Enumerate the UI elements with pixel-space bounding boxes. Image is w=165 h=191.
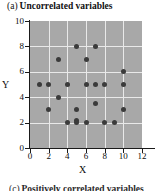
- y-tick-label: 4: [2, 93, 24, 102]
- y-axis-line: [29, 20, 30, 149]
- next-panel-letter: (c): [9, 184, 20, 191]
- data-point: [84, 82, 89, 87]
- y-tick-label: 2: [2, 118, 24, 127]
- x-axis-line: [29, 148, 155, 149]
- y-tick-mark: [25, 123, 29, 124]
- next-panel-title: Positively correlated variables: [20, 184, 144, 191]
- y-axis-label: Y: [2, 79, 9, 90]
- x-tick-label: 0: [22, 152, 38, 161]
- x-tick-label: 8: [97, 152, 113, 161]
- next-figure-caption: (c)Positively correlated variables: [9, 184, 144, 191]
- scatter-plot-figure: (a)Uncorrelated variables 0246810 024681…: [0, 0, 165, 191]
- y-tick-label: 6: [2, 67, 24, 76]
- y-tick-mark: [25, 97, 29, 98]
- x-tick-label: 12: [134, 152, 150, 161]
- y-tick-label: 10: [2, 17, 24, 26]
- x-tick-label: 2: [41, 152, 57, 161]
- y-tick-mark: [25, 46, 29, 47]
- data-point: [65, 120, 70, 125]
- gridline-horizontal: [30, 97, 142, 98]
- x-tick-label: 4: [59, 152, 75, 161]
- x-tick-label: 10: [115, 152, 131, 161]
- y-tick-mark: [25, 148, 29, 149]
- data-point: [56, 57, 61, 62]
- y-tick-mark: [25, 72, 29, 73]
- gridline-horizontal: [30, 46, 142, 47]
- y-tick-mark: [25, 21, 29, 22]
- data-point: [112, 120, 117, 125]
- data-point: [65, 82, 70, 87]
- panel-letter: (a): [7, 1, 18, 11]
- y-tick-label: 0: [2, 144, 24, 153]
- data-point: [121, 82, 126, 87]
- data-point: [93, 101, 98, 106]
- y-tick-label: 8: [2, 42, 24, 51]
- data-point: [93, 44, 98, 49]
- data-point: [84, 120, 89, 125]
- x-axis-label: X: [0, 164, 165, 175]
- data-point: [84, 57, 89, 62]
- data-point: [93, 82, 98, 87]
- x-tick-label: 6: [78, 152, 94, 161]
- data-point: [56, 95, 61, 100]
- panel-title: Uncorrelated variables: [18, 1, 113, 11]
- figure-caption: (a)Uncorrelated variables: [7, 1, 113, 11]
- data-point: [37, 82, 42, 87]
